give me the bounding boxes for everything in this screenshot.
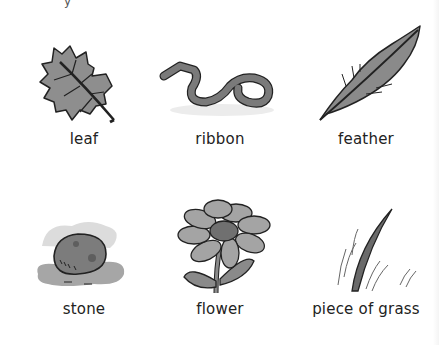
item-feather: feather	[296, 20, 436, 150]
feather-icon	[296, 20, 436, 125]
item-label: stone	[14, 300, 154, 318]
item-label: feather	[296, 130, 436, 148]
leaf-icon	[14, 30, 154, 125]
item-flower: flower	[150, 195, 290, 320]
stone-icon	[14, 200, 154, 295]
ribbon-icon	[150, 30, 290, 125]
item-ribbon: ribbon	[150, 30, 290, 150]
page-edge	[433, 0, 439, 345]
item-leaf: leaf	[14, 30, 154, 150]
item-stone: stone	[14, 200, 154, 320]
item-label: piece of grass	[296, 300, 436, 318]
item-piece-of-grass: piece of grass	[296, 195, 436, 320]
item-label: leaf	[14, 130, 154, 148]
item-label: ribbon	[150, 130, 290, 148]
item-label: flower	[150, 300, 290, 318]
flower-icon	[150, 195, 290, 295]
cropped-text-fragment: y	[64, 0, 71, 8]
worksheet-page: y leaf ribbon feather	[0, 0, 439, 345]
grass-icon	[296, 195, 436, 295]
